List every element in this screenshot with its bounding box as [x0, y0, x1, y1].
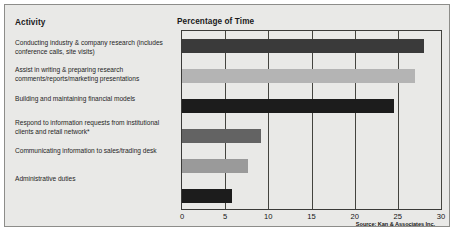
x-tick-label: 15: [307, 212, 315, 221]
bar: [182, 99, 394, 113]
bar: [182, 39, 424, 53]
x-tick-label: 20: [350, 212, 358, 221]
activity-label: Communicating information to sales/tradi…: [15, 147, 177, 156]
bar: [182, 159, 248, 173]
figure-panel: Activity Conducting industry & company r…: [4, 4, 450, 227]
x-tick-label: 30: [437, 212, 445, 221]
bar: [182, 129, 261, 143]
activity-column-header: Activity: [15, 18, 45, 27]
gridline: [398, 31, 399, 209]
activity-label: Assist in writing & preparing research c…: [15, 66, 177, 83]
source-note: Source: Kan & Associates Inc.: [356, 221, 435, 227]
x-tick-label: 25: [394, 212, 402, 221]
activity-label: Building and maintaining financial model…: [15, 95, 177, 104]
gridline: [225, 31, 226, 209]
activity-label: Respond to information requests from ins…: [15, 119, 177, 136]
bar: [182, 189, 232, 203]
plot-area: [181, 30, 442, 210]
activity-column: Activity Conducting industry & company r…: [15, 15, 175, 218]
gridline: [268, 31, 269, 209]
gridline: [355, 31, 356, 209]
activity-label: Conducting industry & company research (…: [15, 39, 177, 56]
chart-title: Percentage of Time: [177, 17, 254, 26]
activity-label: Administrative duties: [15, 175, 177, 184]
chart-figure: Activity Conducting industry & company r…: [0, 0, 454, 231]
x-tick-label: 10: [264, 212, 272, 221]
bar: [182, 69, 415, 83]
x-tick-label: 0: [180, 212, 184, 221]
x-tick-label: 5: [223, 212, 227, 221]
gridline: [312, 31, 313, 209]
gridline: [441, 31, 442, 209]
